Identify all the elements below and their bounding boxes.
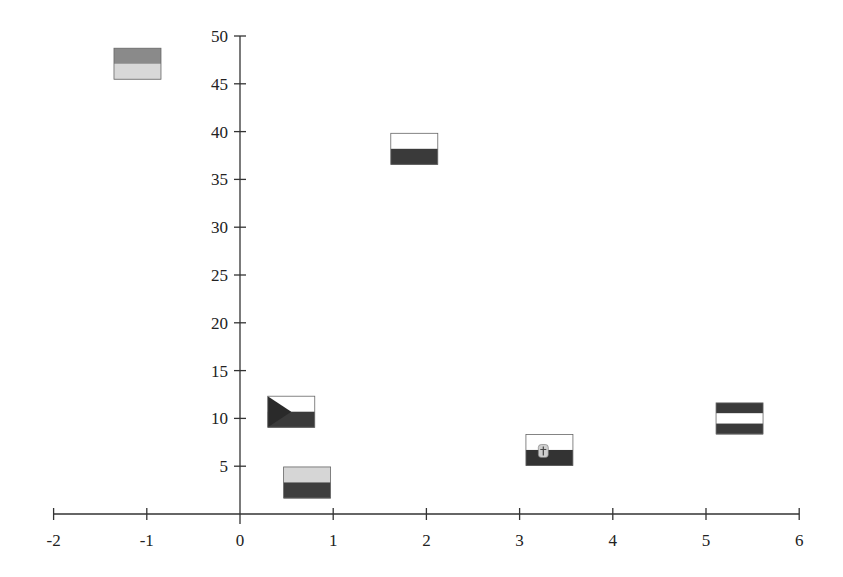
- x-tick-label: 1: [329, 531, 338, 550]
- x-tick-label: -2: [47, 531, 61, 550]
- x-tick-label: 4: [609, 531, 618, 550]
- y-tick-label: 10: [211, 409, 228, 428]
- y-tick-label: 40: [211, 123, 228, 142]
- y-tick-label: 15: [211, 362, 228, 381]
- y-tick-label: 20: [211, 314, 228, 333]
- flag-marker-icon: [716, 403, 763, 435]
- x-tick-label: 3: [515, 531, 524, 550]
- y-axis-ticks: 5101520253035404550: [211, 27, 246, 476]
- axes: [54, 36, 800, 524]
- flag-marker-icon: [268, 396, 315, 428]
- y-tick-label: 30: [211, 218, 228, 237]
- x-tick-label: 2: [422, 531, 431, 550]
- y-tick-label: 35: [211, 170, 228, 189]
- y-tick-label: 50: [211, 27, 228, 46]
- y-tick-label: 25: [211, 266, 228, 285]
- y-tick-label: 45: [211, 75, 228, 94]
- flag-marker-icon: [114, 48, 161, 80]
- flag-marker-icon: [391, 133, 438, 165]
- scatter-chart: -2-10123456 5101520253035404550: [0, 0, 843, 577]
- x-tick-label: 0: [236, 531, 245, 550]
- y-tick-label: 5: [220, 457, 229, 476]
- x-tick-label: 6: [795, 531, 804, 550]
- x-tick-label: 5: [702, 531, 711, 550]
- x-tick-label: -1: [140, 531, 154, 550]
- flag-marker-icon: [284, 467, 331, 499]
- flag-marker-icon: [526, 434, 573, 466]
